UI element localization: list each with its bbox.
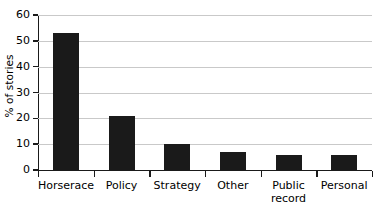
gridline-20 — [38, 118, 372, 119]
x-axis-label: Horserace — [38, 180, 94, 193]
bar — [109, 116, 135, 170]
y-tick-label-40: 40 — [0, 61, 30, 72]
y-tick-label-0: 0 — [0, 164, 30, 175]
x-tick-mark — [372, 171, 373, 177]
bar — [220, 152, 246, 170]
x-tick-mark — [94, 171, 95, 177]
x-tick-mark — [261, 171, 262, 177]
bar-chart: % of stories 0102030405060 HorseracePoli… — [0, 0, 377, 210]
gridline-50 — [38, 41, 372, 42]
y-tick-label-50: 50 — [0, 35, 30, 46]
bar — [331, 155, 357, 171]
y-tick-label-20: 20 — [0, 112, 30, 123]
bar — [53, 33, 79, 170]
x-axis-label: Strategy — [149, 180, 205, 193]
plot-area — [38, 15, 372, 170]
x-tick-mark — [316, 171, 317, 177]
y-tick-label-30: 30 — [0, 87, 30, 98]
x-axis-label: Policy — [94, 180, 150, 193]
bar — [164, 144, 190, 170]
x-tick-mark — [149, 171, 150, 177]
x-axis-label: Personal — [316, 180, 372, 193]
gridline-10 — [38, 144, 372, 145]
x-axis-label: Other — [205, 180, 261, 193]
x-tick-mark — [205, 171, 206, 177]
x-tick-mark — [38, 171, 39, 177]
bar — [276, 155, 302, 171]
x-axis-label: Public record — [261, 180, 317, 205]
gridline-40 — [38, 67, 372, 68]
gridline-60 — [38, 15, 372, 16]
gridline-30 — [38, 93, 372, 94]
y-tick-label-60: 60 — [0, 9, 30, 20]
y-tick-label-10: 10 — [0, 138, 30, 149]
